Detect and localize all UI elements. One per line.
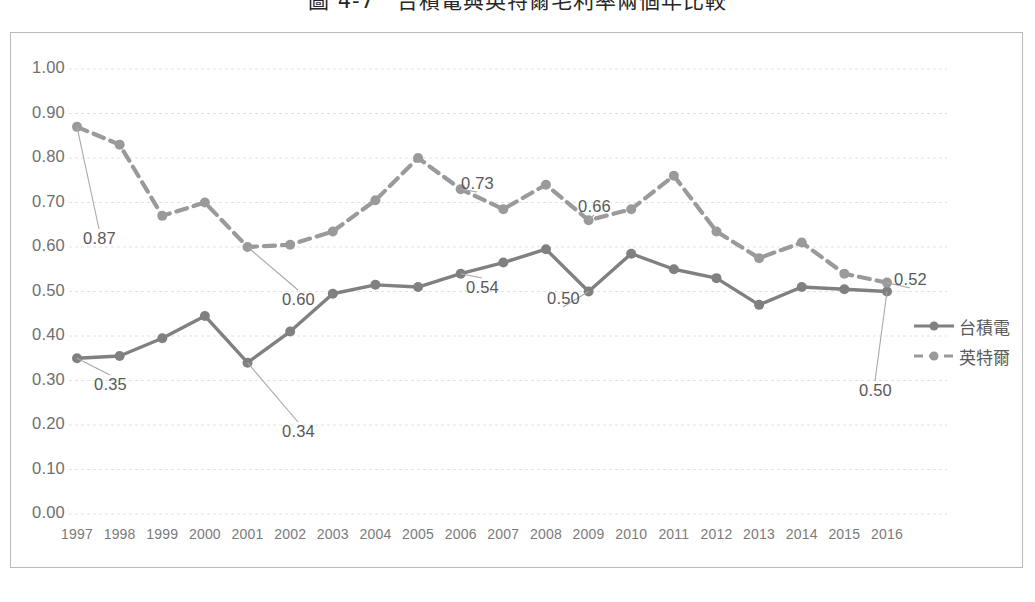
legend-marker-dashed-icon xyxy=(913,348,955,364)
y-axis-tick-label: 0.90 xyxy=(13,103,65,122)
x-axis-tick-label: 1998 xyxy=(97,526,143,542)
y-axis-tick-label: 0.70 xyxy=(13,192,65,211)
chart-legend: 台積電 英特爾 xyxy=(913,311,1028,371)
data-value-label: 0.52 xyxy=(894,270,927,289)
data-point xyxy=(328,289,338,299)
x-axis-tick-label: 2008 xyxy=(523,526,569,542)
data-point xyxy=(115,140,125,150)
data-point xyxy=(839,284,849,294)
chart-screenshot: 圖 4-7 台積電與英特爾毛利率兩個年比較 1.000.900.800.700.… xyxy=(0,0,1035,602)
data-point xyxy=(200,311,210,321)
y-axis-tick-label: 0.50 xyxy=(13,281,65,300)
legend-label-tsmc: 台積電 xyxy=(959,314,1010,339)
label-leader-line xyxy=(77,358,110,375)
figure-title: 圖 4-7 台積電與英特爾毛利率兩個年比較 xyxy=(0,0,1035,14)
data-point xyxy=(413,153,423,163)
legend-item-tsmc: 台積電 xyxy=(913,311,1028,341)
x-axis-tick-label: 2002 xyxy=(267,526,313,542)
y-axis-tick-label: 0.10 xyxy=(13,459,65,478)
x-axis-tick-label: 2000 xyxy=(182,526,228,542)
x-axis-tick-label: 2014 xyxy=(779,526,825,542)
y-axis-tick-label: 0.20 xyxy=(13,414,65,433)
data-point xyxy=(669,264,679,274)
data-value-label: 0.50 xyxy=(547,289,580,308)
data-point xyxy=(498,258,508,268)
y-axis-tick-label: 0.00 xyxy=(13,503,65,522)
data-point xyxy=(115,351,125,361)
y-axis-tick-label: 0.30 xyxy=(13,370,65,389)
data-point xyxy=(754,300,764,310)
data-point xyxy=(711,226,721,236)
data-point xyxy=(285,327,295,337)
legend-marker-solid-icon xyxy=(913,318,955,334)
x-axis-tick-label: 1999 xyxy=(139,526,185,542)
x-axis-tick-label: 2004 xyxy=(352,526,398,542)
data-point xyxy=(200,198,210,208)
x-axis-tick-label: 2012 xyxy=(693,526,739,542)
x-axis-tick-label: 2013 xyxy=(736,526,782,542)
series-line-tsmc xyxy=(77,249,887,362)
data-value-label: 0.54 xyxy=(466,278,499,297)
data-point xyxy=(797,282,807,292)
label-leader-line xyxy=(248,363,298,422)
x-axis-tick-label: 2007 xyxy=(480,526,526,542)
line-chart-plot xyxy=(11,33,1022,567)
data-point xyxy=(626,249,636,259)
x-axis-tick-label: 2010 xyxy=(608,526,654,542)
label-leader-line xyxy=(248,247,298,290)
data-point xyxy=(413,282,423,292)
x-axis-tick-label: 2015 xyxy=(821,526,867,542)
data-point xyxy=(285,240,295,250)
series-line-intel xyxy=(77,127,887,283)
data-value-label: 0.60 xyxy=(282,290,315,309)
data-point xyxy=(157,333,167,343)
label-leader-line xyxy=(77,127,99,229)
data-point xyxy=(711,273,721,283)
data-point xyxy=(626,204,636,214)
x-axis-tick-label: 2001 xyxy=(225,526,271,542)
chart-frame: 1.000.900.800.700.600.500.400.300.200.10… xyxy=(10,32,1023,568)
data-point xyxy=(370,280,380,290)
data-point xyxy=(839,269,849,279)
y-axis-tick-label: 1.00 xyxy=(13,58,65,77)
y-axis-tick-label: 0.60 xyxy=(13,236,65,255)
x-axis-tick-label: 2003 xyxy=(310,526,356,542)
data-point xyxy=(370,195,380,205)
x-axis-tick-label: 1997 xyxy=(54,526,100,542)
data-value-label: 0.34 xyxy=(282,422,315,441)
x-axis-tick-label: 2006 xyxy=(438,526,484,542)
data-value-label: 0.50 xyxy=(859,381,892,400)
data-value-label: 0.35 xyxy=(94,375,127,394)
y-axis-tick-label: 0.40 xyxy=(13,325,65,344)
x-axis-tick-label: 2016 xyxy=(864,526,910,542)
data-value-label: 0.73 xyxy=(461,174,494,193)
legend-item-intel: 英特爾 xyxy=(913,341,1028,371)
data-point xyxy=(328,226,338,236)
data-value-label: 0.87 xyxy=(83,229,116,248)
data-point xyxy=(541,244,551,254)
data-point xyxy=(754,253,764,263)
legend-label-intel: 英特爾 xyxy=(959,344,1010,369)
data-point xyxy=(498,204,508,214)
x-axis-tick-label: 2011 xyxy=(651,526,697,542)
x-axis-tick-label: 2009 xyxy=(566,526,612,542)
data-point xyxy=(157,211,167,221)
y-axis-tick-label: 0.80 xyxy=(13,147,65,166)
data-point xyxy=(797,238,807,248)
x-axis-tick-label: 2005 xyxy=(395,526,441,542)
data-value-label: 0.66 xyxy=(578,197,611,216)
data-point xyxy=(669,171,679,181)
data-point xyxy=(541,180,551,190)
